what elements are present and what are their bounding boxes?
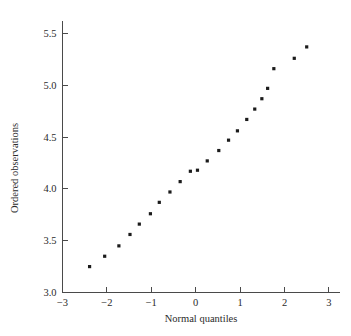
data-point [236,129,239,132]
data-point [196,169,199,172]
x-tick-label: 1 [237,297,242,308]
data-point [217,149,220,152]
data-point [253,107,256,110]
y-axis-ticks: 3.03.54.04.55.05.5 [43,28,68,298]
y-tick-label: 3.5 [43,235,56,246]
x-tick-label: −2 [101,297,112,308]
y-axis-title: Ordered observations [9,123,20,213]
plot-canvas: 3.03.54.04.55.05.5 −3−2−10123 Normal qua… [0,0,351,336]
data-point [272,67,275,70]
data-point [293,57,296,60]
data-point [227,139,230,142]
data-point [158,201,161,204]
y-tick-label: 4.5 [43,132,56,143]
x-axis-title: Normal quantiles [165,313,238,324]
data-point [149,212,152,215]
data-point [117,244,120,247]
x-tick-label: 2 [282,297,287,308]
x-tick-label: 0 [193,297,198,308]
data-point [266,87,269,90]
x-tick-label: −3 [57,297,68,308]
data-point [260,97,263,100]
data-point [206,159,209,162]
data-point [128,233,131,236]
y-tick-label: 3.0 [43,287,56,298]
x-axis-ticks: −3−2−10123 [57,287,332,308]
y-tick-label: 5.0 [43,80,56,91]
data-point-series [88,45,308,268]
qq-plot-figure: 3.03.54.04.55.05.5 −3−2−10123 Normal qua… [0,0,351,336]
y-tick-label: 4.0 [43,183,56,194]
data-point [103,255,106,258]
y-tick-label: 5.5 [43,28,56,39]
data-point [179,180,182,183]
data-point [189,170,192,173]
data-point [305,45,308,48]
data-point [168,190,171,193]
data-point [245,118,248,121]
x-tick-label: −1 [146,297,157,308]
data-point [88,265,91,268]
data-point [138,223,141,226]
x-tick-label: 3 [326,297,331,308]
